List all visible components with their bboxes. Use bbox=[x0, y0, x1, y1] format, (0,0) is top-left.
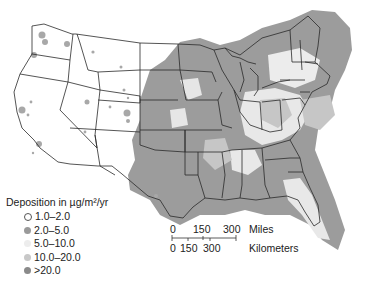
km-tick-300: 300 bbox=[203, 242, 221, 254]
legend-item: >20.0 bbox=[24, 264, 108, 278]
miles-tick-300: 300 bbox=[223, 223, 241, 235]
legend-item: 5.0–10.0 bbox=[24, 237, 108, 251]
legend-label: 10.0–20.0 bbox=[34, 251, 81, 264]
swatch-icon bbox=[24, 254, 31, 261]
deposition-region-mid bbox=[300, 95, 335, 130]
swatch-icon bbox=[24, 213, 32, 221]
legend-label: 1.0–2.0 bbox=[35, 210, 70, 223]
miles-tick-0: 0 bbox=[170, 223, 176, 235]
legend-item: 10.0–20.0 bbox=[24, 251, 108, 265]
miles-label: Miles bbox=[249, 223, 274, 235]
legend: Deposition in µg/m²/yr 1.0–2.0 2.0–5.0 5… bbox=[6, 196, 108, 278]
km-tick-0: 0 bbox=[170, 242, 176, 254]
swatch-icon bbox=[24, 240, 31, 247]
miles-tick-150: 150 bbox=[193, 223, 211, 235]
deposition-region-light bbox=[170, 108, 188, 128]
legend-label: >20.0 bbox=[34, 264, 61, 277]
legend-label: 2.0–5.0 bbox=[34, 224, 69, 237]
swatch-icon bbox=[24, 267, 31, 274]
legend-item: 1.0–2.0 bbox=[24, 210, 108, 224]
km-label: Kilometers bbox=[249, 242, 299, 254]
legend-item: 2.0–5.0 bbox=[24, 224, 108, 238]
legend-title: Deposition in µg/m²/yr bbox=[6, 196, 108, 209]
legend-label: 5.0–10.0 bbox=[34, 237, 75, 250]
swatch-icon bbox=[24, 227, 31, 234]
km-tick-150: 150 bbox=[180, 242, 198, 254]
scale-bar-line bbox=[172, 235, 236, 241]
